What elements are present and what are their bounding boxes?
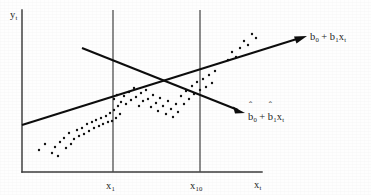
data-point [239, 47, 241, 49]
data-point [51, 152, 53, 154]
data-point [231, 51, 233, 53]
data-point [120, 101, 122, 103]
data-point [109, 112, 111, 114]
x-axis-label: xt [254, 175, 261, 191]
data-point [54, 146, 56, 148]
data-point [73, 138, 75, 140]
data-point [123, 95, 125, 97]
data-point [255, 37, 257, 39]
true-line-arrowhead [294, 36, 307, 44]
data-point [135, 96, 137, 98]
data-point [83, 133, 85, 135]
data-point [113, 98, 115, 100]
data-point [113, 109, 115, 111]
data-point [175, 103, 177, 105]
data-point [214, 70, 216, 72]
data-point [86, 123, 88, 125]
data-point [211, 82, 213, 84]
data-point [142, 100, 144, 102]
tick-label-x10-sub: 10 [196, 185, 203, 192]
data-point [180, 95, 182, 97]
true-line-annotation: b0+b1xt [310, 27, 346, 43]
data-point [155, 102, 157, 104]
data-point [88, 130, 90, 132]
data-point [38, 149, 40, 151]
data-point [162, 105, 164, 107]
data-point [91, 121, 93, 123]
data-point [191, 85, 193, 87]
true-line-term2-sub: 1 [335, 36, 338, 43]
data-point [125, 103, 127, 105]
true-line-operator: + [319, 31, 330, 42]
data-point [167, 100, 169, 102]
data-point [177, 111, 179, 113]
fitted-line-term3-sub: t [282, 116, 284, 123]
data-point [93, 127, 95, 129]
data-point [95, 119, 97, 121]
data-point [100, 117, 102, 119]
true-line-term3-sub: t [344, 36, 346, 43]
x-axis-label-sub: t [260, 184, 262, 191]
data-point [247, 44, 249, 46]
data-point [183, 103, 185, 105]
tick-label-x1: x1 [106, 176, 115, 192]
data-point [130, 99, 132, 101]
data-point [81, 127, 83, 129]
data-point [251, 33, 253, 35]
data-point [145, 89, 147, 91]
data-point [44, 143, 46, 145]
fitted-line-term1-sub: 0 [254, 116, 257, 123]
true-line-term1-sub: 0 [316, 36, 319, 43]
data-point [105, 115, 107, 117]
scatter-points-group [38, 33, 257, 157]
data-point [111, 120, 113, 122]
data-point [78, 135, 80, 137]
data-point [147, 98, 149, 100]
data-point [65, 147, 67, 149]
data-point [159, 97, 161, 99]
fitted-line-term2-hat: ˆ [269, 102, 272, 112]
data-point [170, 108, 172, 110]
data-point [70, 143, 72, 145]
true-line-term1: b [310, 27, 315, 43]
data-point [76, 129, 78, 131]
x-axis-label-base: x [254, 179, 259, 190]
tick-label-x10: x10 [190, 176, 202, 192]
data-point [59, 141, 61, 143]
data-point [205, 86, 207, 88]
data-point [208, 74, 210, 76]
data-point [115, 117, 117, 119]
data-point [107, 121, 109, 123]
data-point [140, 92, 142, 94]
fitted-line-term2-sub: 1 [273, 116, 276, 123]
tick-label-x1-sub: 1 [112, 185, 115, 192]
data-point [63, 137, 65, 139]
fitted-line-term1-base: b [248, 111, 253, 122]
data-point [150, 106, 152, 108]
data-point [68, 132, 70, 134]
y-axis-label: yt [10, 5, 17, 21]
data-point [152, 94, 154, 96]
fitted-line-operator: + [257, 111, 268, 122]
data-point [172, 116, 174, 118]
fitted-regression-line [82, 48, 245, 114]
data-point [243, 40, 245, 42]
data-point [202, 78, 204, 80]
fitted-line-arrowhead [233, 107, 245, 114]
y-axis-label-sub: t [16, 14, 18, 21]
data-point [157, 110, 159, 112]
tick-label-x10-base: x [190, 180, 195, 191]
data-point [188, 98, 190, 100]
data-point [102, 123, 104, 125]
fitted-line-annotation: ˆb0+ˆb1xt [248, 107, 284, 123]
tick-label-x1-base: x [106, 180, 111, 191]
data-point [138, 105, 140, 107]
fitted-line-term1-hat: ˆ [249, 102, 252, 112]
regression-scatter-figure: yt xt x1 x10 b0+b1xt ˆb0+ˆb1xt [0, 0, 371, 195]
y-axis-label-base: y [10, 9, 15, 20]
data-point [98, 125, 100, 127]
true-line-term1-base: b [310, 31, 315, 42]
fitted-line-term1: ˆb [248, 107, 253, 123]
data-point [196, 81, 198, 83]
data-point [165, 113, 167, 115]
